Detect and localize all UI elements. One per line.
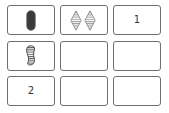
oval-solid-icon [26,10,36,31]
card-empty[interactable] [60,41,108,71]
card-number-2[interactable]: 2 [7,76,55,106]
card-squiggle-striped[interactable] [7,41,55,71]
diamond-striped-icon [70,10,98,31]
card-label: 1 [134,15,140,25]
card-empty[interactable] [60,76,108,106]
card-diamond-striped[interactable] [60,5,108,35]
card-oval-solid[interactable] [7,5,55,35]
card-empty[interactable] [113,41,161,71]
squiggle-striped-icon [26,45,36,66]
card-number-1[interactable]: 1 [113,5,161,35]
card-grid: 1 2 [7,5,161,106]
card-empty[interactable] [113,76,161,106]
card-label: 2 [28,86,34,96]
